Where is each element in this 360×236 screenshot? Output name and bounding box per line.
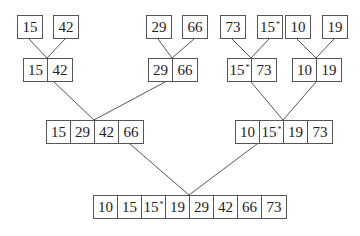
level-0-singletons-array: 19 [322,15,348,39]
merge-edge [232,39,251,58]
array-cell: 15 [18,16,42,38]
duplicate-marker: * [276,20,280,29]
level-3-final-array: 101515*1929426673 [93,195,287,219]
level-0-singletons-array: 15 [17,15,43,39]
array-cell: 73 [221,16,245,38]
array-cell: 29 [149,59,173,81]
array-cell: 42 [48,59,72,81]
merge-edge [94,82,165,120]
level-0-singletons-array: 66 [182,15,208,39]
merge-edge [251,82,283,120]
array-cell: 15* [228,59,252,81]
level-0-singletons-array: 73 [220,15,246,39]
array-cell: 10 [286,16,310,38]
merge-edge [29,39,47,58]
array-cell: 73 [252,59,276,81]
level-0-singletons-array: 29 [146,15,172,39]
merge-edge [130,144,189,195]
merge-edge [172,39,194,58]
merge-edge [47,39,65,58]
duplicate-marker: * [278,125,282,134]
array-cell: 19 [284,121,308,143]
array-cell: 66 [173,59,197,81]
array-cell: 15* [258,16,282,38]
level-1-pairs-array: 2966 [148,58,198,82]
merge-edge [251,39,269,58]
level-1-pairs-array: 1019 [292,58,342,82]
array-cell: 19 [317,59,341,81]
merge-edge [283,82,316,120]
array-cell: 15 [24,59,48,81]
duplicate-marker: * [160,200,164,209]
merge-edge [189,144,257,195]
array-cell: 42 [214,196,238,218]
array-cell: 10 [293,59,317,81]
array-cell: 15* [260,121,284,143]
array-cell: 10 [236,121,260,143]
level-2-quads-array: 1015*1973 [235,120,333,144]
duplicate-marker: * [246,63,250,72]
level-2-quads-array: 15294266 [46,120,144,144]
array-cell: 19 [323,16,347,38]
array-cell: 10 [94,196,118,218]
array-cell: 29 [190,196,214,218]
array-cell: 73 [308,121,332,143]
array-cell: 42 [95,121,119,143]
level-0-singletons-array: 42 [53,15,79,39]
array-cell: 29 [71,121,95,143]
level-0-singletons-array: 15* [257,15,283,39]
merge-edge [316,39,334,58]
array-cell: 66 [238,196,262,218]
array-cell: 19 [166,196,190,218]
merge-edge [158,39,172,58]
level-0-singletons-array: 10 [285,15,311,39]
merge-edge [297,39,316,58]
level-1-pairs-array: 1542 [23,58,73,82]
level-1-pairs-array: 15*73 [227,58,277,82]
array-cell: 15 [47,121,71,143]
array-cell: 73 [262,196,286,218]
array-cell: 15* [142,196,166,218]
merge-sort-diagram: 154229667315*10191542296615*731019152942… [0,0,360,236]
merge-edge [54,82,94,120]
array-cell: 66 [183,16,207,38]
array-cell: 29 [147,16,171,38]
array-cell: 42 [54,16,78,38]
array-cell: 15 [118,196,142,218]
array-cell: 66 [119,121,143,143]
